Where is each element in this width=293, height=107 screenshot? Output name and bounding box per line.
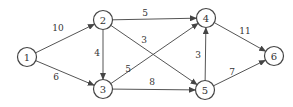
edge-weight-3-5: 8 [149, 77, 155, 87]
edge-1-2 [36, 24, 95, 53]
node-5: 5 [196, 81, 215, 100]
edge-3-4 [111, 23, 198, 83]
edge-1-3 [36, 61, 94, 86]
node-label: 1 [24, 52, 30, 63]
node-6: 6 [265, 47, 284, 66]
edge-weight-1-3: 6 [53, 72, 59, 82]
edge-weight-2-5: 3 [141, 35, 147, 45]
edge-weight-5-6: 7 [229, 67, 235, 77]
edge-weight-2-3: 4 [94, 48, 100, 58]
edge-weight-4-6: 11 [239, 26, 250, 36]
edge-weight-1-2: 10 [52, 23, 64, 33]
node-label: 4 [203, 13, 209, 24]
edge-5-6 [214, 60, 266, 86]
edge-5-4 [205, 27, 206, 80]
edge-labels: 106453583117 [52, 8, 250, 87]
edge-weight-2-4: 5 [142, 8, 148, 18]
edge-3-5 [112, 89, 195, 90]
node-2: 2 [94, 11, 113, 30]
node-label: 5 [202, 85, 208, 96]
edge-weight-5-4: 3 [195, 50, 201, 60]
node-3: 3 [94, 80, 113, 99]
node-label: 6 [271, 51, 277, 62]
edge-2-4 [112, 18, 196, 20]
node-1: 1 [18, 48, 37, 67]
edge-2-5 [111, 25, 197, 84]
node-4: 4 [197, 9, 216, 28]
node-label: 2 [100, 15, 106, 26]
node-label: 3 [100, 84, 106, 95]
graph-diagram: 106453583117 123456 [0, 0, 293, 107]
edge-weight-3-4: 5 [125, 64, 131, 74]
